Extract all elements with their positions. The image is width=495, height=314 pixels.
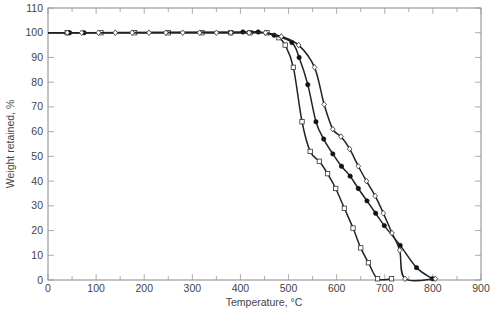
x-tick-label: 800 <box>424 282 442 294</box>
data-point-square <box>325 171 329 175</box>
x-tick-label: 0 <box>45 282 51 294</box>
data-point-square <box>283 43 287 47</box>
data-point-filled <box>365 199 369 203</box>
series-1 <box>48 30 435 281</box>
data-point-filled <box>321 137 325 141</box>
data-point-square <box>308 149 312 153</box>
x-tick-label: 400 <box>232 282 250 294</box>
y-tick-label: 70 <box>31 100 43 112</box>
data-point-square <box>317 159 321 163</box>
y-tick-label: 10 <box>31 249 43 261</box>
y-tick-label: 40 <box>31 175 43 187</box>
data-point-filled <box>382 223 386 227</box>
y-tick-label: 50 <box>31 150 43 162</box>
data-point-square <box>351 226 355 230</box>
x-tick-label: 100 <box>87 282 105 294</box>
y-tick-label: 60 <box>31 125 43 137</box>
x-tick-label: 700 <box>376 282 394 294</box>
y-tick-label: 100 <box>25 26 43 38</box>
y-axis-label: Weight retained, % <box>4 100 16 189</box>
x-tick-label: 200 <box>135 282 153 294</box>
data-point-filled <box>339 164 343 168</box>
data-point-square <box>375 277 379 281</box>
data-point-filled <box>356 186 360 190</box>
data-point-filled <box>331 152 335 156</box>
data-point-filled <box>306 82 310 86</box>
y-tick-label: 90 <box>31 51 43 63</box>
y-tick-label: 30 <box>31 199 43 211</box>
data-point-square <box>342 206 346 210</box>
x-tick-label: 300 <box>184 282 202 294</box>
data-point-diamond <box>397 248 402 254</box>
axes: 0100200300400500600700800900010203040506… <box>25 2 489 295</box>
x-tick-label: 500 <box>280 282 298 294</box>
data-point-diamond <box>214 30 219 36</box>
data-point-diamond <box>113 30 118 36</box>
tga-chart: 0100200300400500600700800900010203040506… <box>0 0 495 314</box>
data-point-filled <box>414 265 418 269</box>
x-tick-label: 600 <box>328 282 346 294</box>
data-point-square <box>291 65 295 69</box>
data-point-diamond <box>180 30 185 36</box>
data-point-filled <box>297 55 301 59</box>
data-point-diamond <box>147 30 152 36</box>
data-point-filled <box>348 174 352 178</box>
x-tick-label: 900 <box>472 282 490 294</box>
plot-frame <box>48 8 481 280</box>
x-axis-label: Temperature, °C <box>226 296 303 308</box>
data-point-square <box>300 120 304 124</box>
data-point-filled <box>373 211 377 215</box>
series-0 <box>48 31 394 281</box>
y-tick-label: 110 <box>26 2 43 14</box>
data-point-diamond <box>322 102 327 108</box>
y-tick-label: 80 <box>31 76 43 88</box>
data-point-filled <box>314 120 318 124</box>
y-tick-label: 20 <box>31 224 43 236</box>
data-point-square <box>334 186 338 190</box>
data-point-square <box>389 277 393 281</box>
data-point-square <box>366 260 370 264</box>
series-2 <box>48 30 438 282</box>
y-tick-label: 0 <box>37 274 43 286</box>
series-layer <box>48 30 438 282</box>
data-point-square <box>359 246 363 250</box>
